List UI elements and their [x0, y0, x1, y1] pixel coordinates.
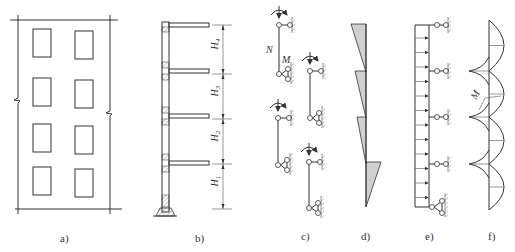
hinge [435, 69, 440, 74]
moment-indicator [479, 96, 501, 110]
wall-hatch [448, 63, 451, 79]
slab-hatch [162, 27, 169, 32]
slab-hatch [162, 107, 169, 113]
dimension-subscript: 1 [214, 176, 222, 180]
hinge [285, 168, 290, 173]
floor-slab [169, 23, 209, 27]
panel-e-beam-model [415, 17, 451, 217]
wall-hatch [292, 17, 295, 33]
window [33, 124, 51, 152]
axial-force-segment [366, 162, 381, 207]
slab-hatch [162, 74, 169, 80]
floor-slab [169, 114, 209, 118]
wall-column [162, 22, 169, 212]
hinge [277, 72, 282, 77]
dimension-label: H4 [209, 38, 222, 50]
hinge [316, 211, 321, 216]
wall-hatch [445, 193, 448, 217]
hinge [435, 162, 440, 167]
axial-force-segment [355, 71, 366, 118]
arrow-head [222, 164, 225, 169]
wall-hatch [322, 106, 325, 128]
hinge [308, 69, 313, 74]
foundation [156, 208, 175, 216]
hinge [285, 158, 290, 163]
moment-f-label: M [468, 88, 483, 102]
wall-hatch [448, 109, 451, 125]
hinge [307, 160, 312, 165]
arrow-head [222, 114, 225, 119]
wall-hatch [291, 110, 294, 126]
axial-force-label: N [265, 44, 274, 55]
panel-f-moment-diagram [469, 20, 504, 210]
dimension-subscript: 2 [214, 130, 222, 134]
hinge [440, 199, 445, 204]
panel-label-e: e) [425, 230, 434, 243]
window [75, 80, 93, 108]
panel-b-section: H4H3H2H1 [153, 22, 232, 216]
window-grid [33, 29, 93, 197]
hinge [277, 23, 282, 28]
slab-hatch [162, 154, 169, 160]
moment-label: M [281, 54, 291, 65]
panel-c-members [270, 6, 326, 218]
hinge [430, 205, 435, 210]
window [75, 126, 93, 154]
dimension-subscript: 3 [214, 85, 222, 90]
window [33, 29, 51, 57]
wall-hatch [321, 196, 324, 218]
dimension-label: H3 [209, 85, 222, 97]
panel-d-axial-diagram [351, 24, 381, 207]
hinge [286, 77, 291, 82]
arrow-head [222, 69, 225, 74]
hinge [308, 116, 313, 121]
floor-slab [169, 161, 209, 165]
panel-label-a: a) [60, 232, 69, 245]
hinge [435, 23, 440, 28]
axial-force-segment [351, 24, 366, 72]
hinge [286, 67, 291, 72]
wall-hatch [448, 156, 451, 172]
slab-hatch [162, 62, 169, 68]
window [75, 169, 93, 197]
arrow-head [222, 159, 225, 164]
dimension-label: H1 [209, 176, 222, 188]
slab-hatch [162, 119, 169, 125]
window [33, 167, 51, 195]
structural-figure: H4H3H2H1 N M M a) b) c) d) e) f) [0, 0, 515, 252]
wall-hatch [291, 62, 294, 84]
hinge [276, 163, 281, 168]
window [75, 31, 93, 59]
panel-label-c: c) [301, 230, 310, 243]
axial-force-segment [357, 117, 366, 164]
dimension-lines: H4H3H2H1 [209, 25, 232, 209]
hinge [276, 116, 281, 121]
hinge [317, 111, 322, 116]
hinge [317, 121, 322, 126]
dimension-subscript: 4 [214, 38, 222, 42]
arrow-head [222, 25, 225, 30]
panel-label-f: f) [488, 230, 496, 243]
wall-hatch [323, 63, 326, 79]
arrow-head [222, 74, 225, 79]
slab-hatch [162, 166, 169, 172]
left-wall-break [14, 15, 20, 214]
wall-hatch [322, 154, 325, 170]
floor-slab [169, 69, 209, 73]
panel-label-b: b) [195, 232, 205, 245]
dimension-label: H2 [209, 130, 222, 142]
right-wall-break [106, 15, 112, 214]
base-hatch [162, 195, 169, 207]
panel-label-d: d) [361, 230, 371, 243]
panel-a-elevation [10, 15, 122, 214]
wall-hatch [448, 17, 451, 33]
arrow-head [222, 204, 225, 209]
hinge [440, 211, 445, 216]
hinge [307, 206, 312, 211]
arrow-head [222, 119, 225, 124]
hinge [435, 115, 440, 120]
wall-hatch [290, 153, 293, 175]
window [33, 78, 51, 106]
hinge [316, 201, 321, 206]
